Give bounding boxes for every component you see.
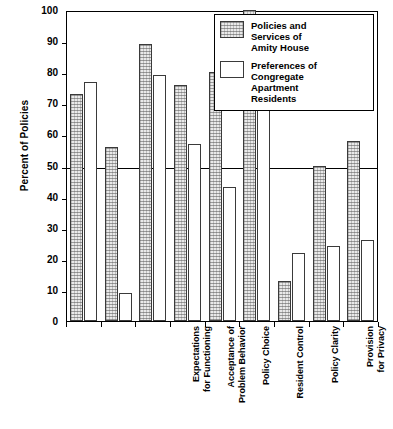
- x-category-label: Policy Choice: [261, 326, 272, 429]
- x-category-label: Resident Control: [295, 326, 306, 429]
- legend-swatch-shaded-icon: [220, 21, 244, 38]
- x-category-label: Expectations for Functioning: [191, 326, 212, 429]
- legend-entry-1: Preferences of Congregate Apartment Resi…: [220, 60, 368, 104]
- x-category-label: Policy Clarity: [330, 326, 341, 429]
- chart-legend: Policies and Services of Amity House Pre…: [214, 14, 374, 111]
- x-category-label: Acceptance of Problem Behavior: [226, 326, 247, 429]
- x-category-label: Provision for Privacy: [365, 326, 386, 429]
- bar-chart: Percent of Policies 10090807060504030201…: [0, 0, 393, 429]
- legend-label-0: Policies and Services of Amity House: [251, 20, 309, 53]
- legend-label-1: Preferences of Congregate Apartment Resi…: [251, 60, 317, 104]
- legend-swatch-open-icon: [220, 61, 244, 78]
- legend-entry-0: Policies and Services of Amity House: [220, 20, 368, 53]
